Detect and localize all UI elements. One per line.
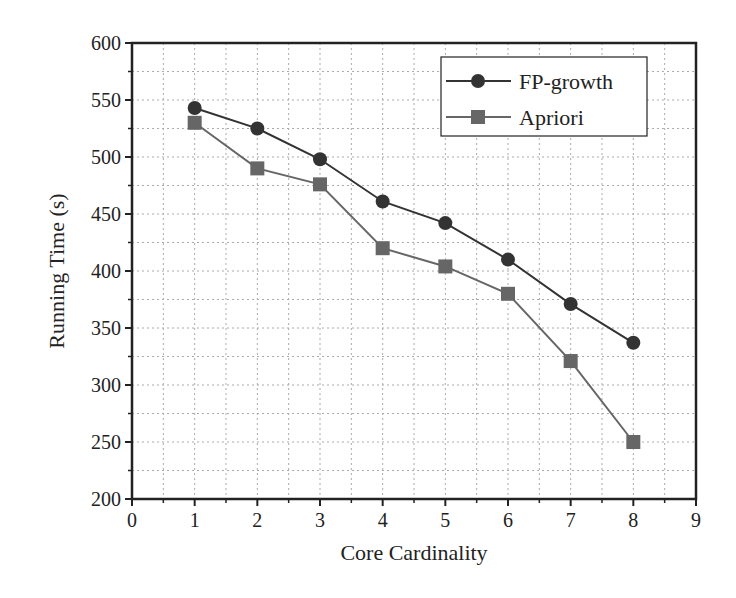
y-tick-label: 200 bbox=[91, 488, 121, 510]
y-tick-label: 600 bbox=[91, 32, 121, 54]
data-point-square-icon bbox=[250, 161, 264, 175]
y-tick-label: 350 bbox=[91, 317, 121, 339]
y-tick-label: 250 bbox=[91, 431, 121, 453]
data-point-square-icon bbox=[313, 177, 327, 191]
x-tick-label: 8 bbox=[628, 509, 638, 531]
data-point-square-icon bbox=[564, 354, 578, 368]
data-point-circle-icon bbox=[188, 101, 202, 115]
data-point-circle-icon bbox=[376, 194, 390, 208]
legend-square-marker-icon bbox=[471, 110, 485, 124]
x-tick-label: 3 bbox=[315, 509, 325, 531]
legend-label-apriori: Apriori bbox=[519, 105, 584, 130]
data-point-circle-icon bbox=[313, 152, 327, 166]
legend-label-fp-growth: FP-growth bbox=[519, 69, 613, 94]
legend-circle-marker-icon bbox=[471, 74, 485, 88]
x-tick-label: 5 bbox=[440, 509, 450, 531]
x-tick-label: 6 bbox=[503, 509, 513, 531]
data-point-square-icon bbox=[438, 259, 452, 273]
data-point-circle-icon bbox=[626, 336, 640, 350]
data-point-circle-icon bbox=[564, 297, 578, 311]
data-point-circle-icon bbox=[250, 122, 264, 136]
y-tick-label: 400 bbox=[91, 260, 121, 282]
y-tick-label: 550 bbox=[91, 89, 121, 111]
legend: FP-growth Apriori bbox=[441, 57, 647, 136]
data-point-square-icon bbox=[501, 287, 515, 301]
line-chart: 0123456789200250300350400450500550600 Co… bbox=[0, 0, 736, 598]
y-tick-label: 500 bbox=[91, 146, 121, 168]
y-tick-label: 450 bbox=[91, 203, 121, 225]
x-tick-label: 2 bbox=[252, 509, 262, 531]
x-tick-label: 0 bbox=[127, 509, 137, 531]
y-axis-title: Running Time (s) bbox=[44, 193, 69, 348]
x-tick-label: 7 bbox=[566, 509, 576, 531]
data-point-circle-icon bbox=[438, 216, 452, 230]
data-point-square-icon bbox=[376, 241, 390, 255]
x-axis-title: Core Cardinality bbox=[340, 540, 487, 565]
x-tick-label: 4 bbox=[378, 509, 388, 531]
data-point-square-icon bbox=[188, 116, 202, 130]
data-point-circle-icon bbox=[501, 253, 515, 267]
y-tick-label: 300 bbox=[91, 374, 121, 396]
data-point-square-icon bbox=[626, 435, 640, 449]
x-tick-label: 9 bbox=[691, 509, 701, 531]
x-tick-label: 1 bbox=[190, 509, 200, 531]
